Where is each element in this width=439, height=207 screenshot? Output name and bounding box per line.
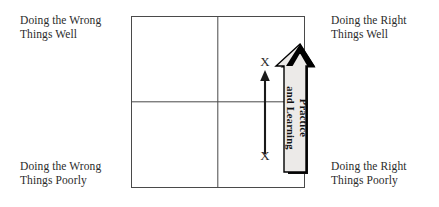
label-bottom-right: Doing the Right Things Poorly xyxy=(331,160,407,187)
label-top-right: Doing the Right Things Well xyxy=(331,14,407,41)
block-arrow-caption: Practice and Learning xyxy=(281,66,309,170)
label-bottom-left: Doing the Wrong Things Poorly xyxy=(20,160,101,187)
label-top-left: Doing the Wrong Things Well xyxy=(20,14,101,41)
diagram-canvas: Doing the Wrong Things Well Doing the Ri… xyxy=(0,0,439,207)
practice-and-learning-arrow: Practice and Learning xyxy=(262,38,318,178)
